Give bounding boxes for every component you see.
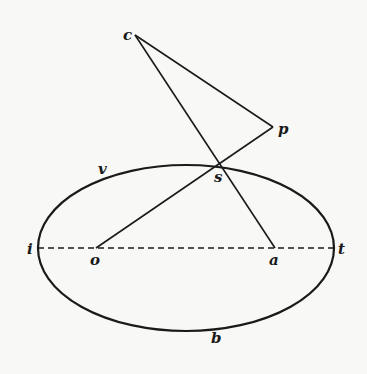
ellipse-figure: c p s v i o a t b (0, 0, 367, 374)
label-s: s (214, 168, 223, 186)
label-c: c (123, 26, 132, 44)
segment-o-p (96, 127, 273, 248)
label-o: o (90, 251, 100, 269)
label-b: b (211, 329, 222, 347)
segment-c-p (135, 35, 273, 127)
label-t: t (338, 240, 345, 258)
segment-c-a (135, 35, 275, 248)
label-v: v (98, 160, 107, 178)
diagram: c p s v i o a t b (0, 0, 367, 374)
label-p: p (278, 120, 289, 138)
label-i: i (27, 240, 33, 258)
label-a: a (269, 251, 279, 269)
